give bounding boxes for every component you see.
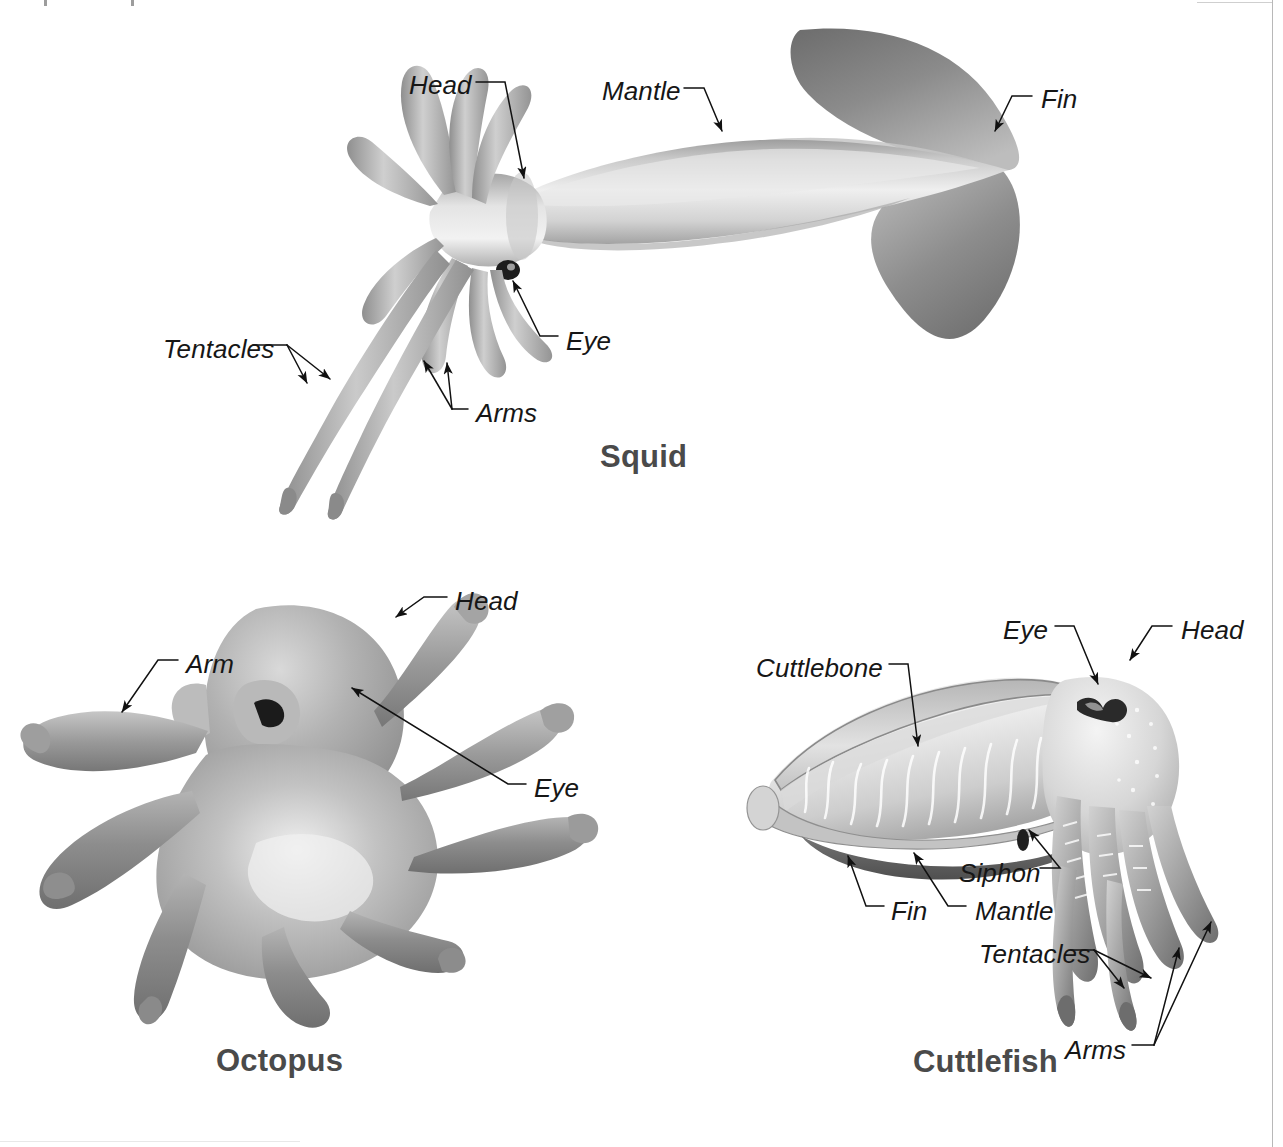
cuttlefish-siphon	[1017, 829, 1029, 851]
label-squid-tentacles: Tentacles	[163, 336, 274, 362]
label-squid-arms: Arms	[476, 400, 537, 426]
label-squid-fin: Fin	[1041, 86, 1077, 112]
squid-eye-glint	[507, 264, 515, 271]
squid-tentacle-club	[328, 493, 344, 520]
clipped-text-speck	[44, 0, 47, 6]
label-cuttlefish-siphon: Siphon	[959, 860, 1041, 886]
label-octopus-arm: Arm	[186, 651, 234, 677]
page-edge-rule	[1272, 0, 1273, 1147]
squid-tentacle-club	[279, 488, 296, 515]
label-octopus-head: Head	[455, 588, 518, 614]
cuttlefish-fin-anterior	[747, 786, 779, 830]
caption-octopus: Octopus	[216, 1045, 343, 1076]
label-squid-eye: Eye	[566, 328, 611, 354]
label-squid-head: Head	[409, 72, 472, 98]
label-cuttlefish-arms: Arms	[1065, 1037, 1126, 1063]
label-squid-mantle: Mantle	[602, 78, 681, 104]
label-cuttlefish-cuttlebone: Cuttlebone	[756, 655, 883, 681]
squid-collar	[506, 172, 538, 260]
caption-squid: Squid	[600, 441, 687, 472]
page-top-rule	[1197, 2, 1272, 3]
clipped-text-speck	[131, 0, 134, 6]
caption-cuttlefish: Cuttlefish	[913, 1046, 1058, 1077]
label-cuttlefish-mantle: Mantle	[975, 898, 1054, 924]
octopus-arm-tip	[568, 814, 598, 843]
label-octopus-eye: Eye	[534, 775, 579, 801]
squid-tentacle	[279, 250, 450, 515]
figure-page: Head Mantle Fin Eye Tentacles Arms Squid…	[0, 0, 1283, 1147]
cuttlefish-illustration	[705, 640, 1265, 1060]
label-cuttlefish-tentacles: Tentacles	[979, 941, 1090, 967]
label-cuttlefish-fin: Fin	[891, 898, 927, 924]
label-cuttlefish-eye: Eye	[1003, 617, 1048, 643]
label-cuttlefish-head: Head	[1181, 617, 1244, 643]
cuttlefish-tentacle-club	[1119, 1002, 1136, 1031]
octopus-illustration	[10, 585, 670, 1035]
page-bottom-rule	[0, 1141, 300, 1142]
